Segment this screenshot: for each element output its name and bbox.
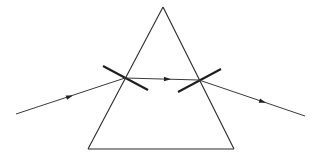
prism-refraction-diagram [0,0,314,160]
internal-arrow-icon [164,77,171,82]
prism [88,7,234,149]
prism-right-face [163,7,234,149]
internal-ray [125,78,199,80]
emergent-arrow-icon [259,98,267,104]
incident-arrow-icon [66,93,74,99]
light-ray [16,77,305,116]
